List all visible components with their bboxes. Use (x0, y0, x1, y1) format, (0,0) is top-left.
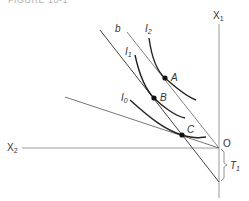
point-a-label: A (170, 72, 178, 83)
line-to-t1 (100, 30, 219, 182)
indifference-diagram: X1 X2 O b I2 I1 I0 A B C T1 (0, 0, 249, 201)
curve-i1-label: I1 (125, 46, 132, 58)
point-c (179, 132, 184, 137)
origin-label: O (223, 138, 231, 149)
t1-label: T1 (230, 160, 240, 172)
line-from-left (65, 97, 219, 148)
line-b (127, 32, 219, 148)
t1-bracket (221, 149, 227, 181)
x1-axis-label: X1 (213, 10, 224, 22)
point-b (151, 95, 156, 100)
curve-i0 (130, 100, 206, 138)
point-c-label: C (187, 124, 195, 135)
point-a (162, 75, 167, 80)
line-b-label: b (115, 23, 121, 34)
curve-i1 (135, 55, 185, 118)
x2-axis-label: X2 (7, 142, 18, 154)
point-b-label: B (160, 92, 167, 103)
curve-i2-label: I2 (145, 23, 152, 35)
curve-i0-label: I0 (121, 92, 128, 104)
